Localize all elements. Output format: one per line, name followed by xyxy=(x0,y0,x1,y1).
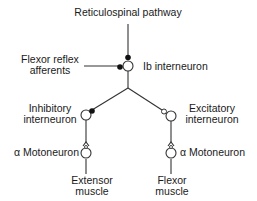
branch-right xyxy=(128,88,162,110)
flexor-muscle-label: Flexor muscle xyxy=(142,175,202,197)
excitatory-interneuron-label: Excitatory interneuron xyxy=(182,103,242,125)
extensor-muscle-label: Extensor muscle xyxy=(62,175,122,197)
left-motoneuron-label: α Motoneuron xyxy=(4,147,79,158)
ib-interneuron-soma xyxy=(123,61,133,71)
excitatory-interneuron-line2: interneuron xyxy=(182,114,242,125)
inhibitory-interneuron-line2: interneuron xyxy=(20,114,80,125)
right-motoneuron-label: α Motoneuron xyxy=(180,147,245,158)
inhibitory-interneuron-terminal xyxy=(89,108,95,114)
extensor-muscle-line2: muscle xyxy=(62,186,122,197)
flexor-reflex-afferents-line2: afferents xyxy=(18,65,82,76)
left-motoneuron-terminal xyxy=(85,146,88,149)
excitatory-interneuron-terminal xyxy=(162,109,167,114)
flexor-reflex-afferents-label: Flexor reflex afferents xyxy=(18,54,82,76)
inhibitory-interneuron-label: Inhibitory interneuron xyxy=(20,103,80,125)
flexor-muscle-line2: muscle xyxy=(142,186,202,197)
reticulospinal-label: Reticulospinal pathway xyxy=(68,7,188,18)
right-motoneuron-soma xyxy=(166,148,176,158)
branch-left xyxy=(92,88,128,110)
neural-circuit-diagram xyxy=(0,0,257,201)
flexor-afferent-terminal xyxy=(117,64,123,70)
right-motoneuron-terminal xyxy=(170,146,173,149)
ib-interneuron-label: Ib interneuron xyxy=(143,61,208,72)
left-motoneuron-soma xyxy=(81,148,91,158)
excitatory-interneuron-soma xyxy=(166,111,176,121)
reticulospinal-terminal xyxy=(125,55,131,61)
